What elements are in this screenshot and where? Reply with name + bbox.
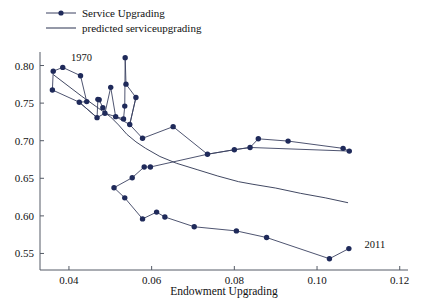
data-point-marker <box>123 81 128 86</box>
data-point-marker <box>347 148 352 153</box>
data-point-marker <box>122 195 127 200</box>
series-markers-service <box>50 55 352 261</box>
data-point-marker <box>205 152 210 157</box>
data-point-marker <box>102 111 107 116</box>
data-point-marker <box>142 164 147 169</box>
data-point-marker <box>346 246 351 251</box>
legend-marker-service-icon <box>58 10 63 15</box>
data-point-marker <box>122 55 127 60</box>
legend-item-service-upgrading[interactable]: Service Upgrading <box>46 7 165 19</box>
data-point-marker <box>256 136 261 141</box>
x-axis-ticks <box>69 266 400 270</box>
data-point-marker <box>96 97 101 102</box>
data-point-marker <box>340 146 345 151</box>
data-point-marker <box>113 114 118 119</box>
data-point-marker <box>108 85 113 90</box>
data-point-marker <box>162 214 167 219</box>
data-point-marker <box>78 73 83 78</box>
data-point-marker <box>140 136 145 141</box>
series-line-predicted <box>53 75 348 203</box>
y-tick-label: 0.80 <box>15 60 35 72</box>
annotation-label-2011: 2011 <box>365 239 386 250</box>
annotation-label-1970: 1970 <box>71 52 92 63</box>
chart-container: 0.040.060.080.100.12 0.550.600.650.700.7… <box>0 0 424 307</box>
y-tick-label: 0.75 <box>15 97 35 109</box>
series-line-service-segment-1 <box>52 58 349 155</box>
x-axis-title: Endowment Upgrading <box>170 285 278 298</box>
scatter-line-chart: 0.040.060.080.100.12 0.550.600.650.700.7… <box>0 0 424 307</box>
data-point-marker <box>122 103 127 108</box>
y-axis-ticks <box>40 66 44 254</box>
y-tick-label: 0.60 <box>15 210 35 222</box>
data-point-marker <box>192 224 197 229</box>
data-point-marker <box>77 100 82 105</box>
data-point-marker <box>148 164 153 169</box>
x-tick-label: 0.10 <box>307 274 327 286</box>
legend-label-service: Service Upgrading <box>82 7 165 19</box>
axes-group <box>40 52 408 270</box>
data-point-marker <box>130 175 135 180</box>
data-point-marker <box>264 235 269 240</box>
data-point-marker <box>60 65 65 70</box>
y-tick-label: 0.70 <box>15 135 35 147</box>
data-point-marker <box>133 95 138 100</box>
y-tick-label: 0.65 <box>15 172 35 184</box>
data-point-marker <box>247 145 252 150</box>
data-point-marker <box>121 116 126 121</box>
data-point-marker <box>154 209 159 214</box>
data-point-marker <box>285 138 290 143</box>
x-tick-label: 0.12 <box>390 274 409 286</box>
data-point-marker <box>94 115 99 120</box>
data-point-marker <box>127 122 132 127</box>
x-tick-label: 0.04 <box>59 274 79 286</box>
series-line-service-segment-3 <box>114 188 349 259</box>
data-point-marker <box>327 256 332 261</box>
legend-label-predicted: predicted serviceupgrading <box>82 22 202 34</box>
data-point-marker <box>84 99 89 104</box>
y-axis-tick-labels: 0.550.600.650.700.750.80 <box>15 60 35 260</box>
data-point-marker <box>232 147 237 152</box>
data-point-marker <box>51 68 56 73</box>
legend: Service Upgrading predicted serviceupgra… <box>46 7 202 34</box>
data-point-marker <box>170 124 175 129</box>
data-point-marker <box>140 216 145 221</box>
data-point-marker <box>111 185 116 190</box>
legend-item-predicted-serviceupgrading[interactable]: predicted serviceupgrading <box>46 22 202 34</box>
y-tick-label: 0.55 <box>15 247 35 259</box>
data-point-marker <box>100 105 105 110</box>
data-point-marker <box>50 87 55 92</box>
x-tick-label: 0.06 <box>142 274 162 286</box>
data-point-marker <box>234 228 239 233</box>
